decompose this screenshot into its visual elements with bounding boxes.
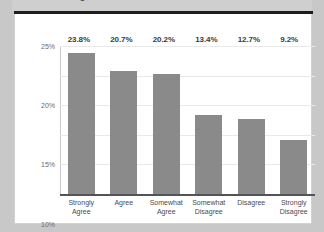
x-axis-category-label: Disagree — [231, 198, 271, 216]
bar-slot: 23.8% — [68, 46, 95, 194]
bar-value-label: 23.8% — [68, 35, 90, 44]
bar-value-label: 13.4% — [195, 35, 217, 44]
bar-slot: 9.2% — [280, 46, 307, 194]
chart-title-band: All College Graduates — [12, 0, 312, 11]
bar[interactable]: 23.8% — [68, 53, 95, 194]
x-axis-tick-labels: StronglyAgreeAgreeSomewhatAgreeSomewhatD… — [60, 198, 315, 216]
bar[interactable]: 20.2% — [153, 74, 180, 194]
category-label-line: Somewhat — [146, 198, 186, 207]
chart-panel: 0%5%10%15%20%25% 23.8%20.7%20.2%13.4%12.… — [14, 14, 312, 224]
bar[interactable]: 9.2% — [280, 140, 307, 194]
gridline: 0% — [60, 194, 315, 195]
plot-area: 0%5%10%15%20%25% 23.8%20.7%20.2%13.4%12.… — [60, 46, 315, 194]
bar[interactable]: 13.4% — [195, 115, 222, 194]
category-label-line: Agree — [61, 207, 101, 216]
bar-slot: 20.2% — [153, 46, 180, 194]
page-title: All College Graduates — [42, 0, 140, 1]
category-label-line: Agree — [146, 207, 186, 216]
bar-value-label: 20.7% — [110, 35, 132, 44]
x-axis-category-label: SomewhatDisagree — [189, 198, 229, 216]
bar-slot: 13.4% — [195, 46, 222, 194]
category-label-line: Disagree — [231, 198, 271, 207]
chart-page: All College Graduates 0%5%10%15%20%25% 2… — [0, 0, 324, 232]
category-label-line: Disagree — [274, 207, 314, 216]
x-axis-category-label: SomewhatAgree — [146, 198, 186, 216]
category-label-line: Somewhat — [189, 198, 229, 207]
category-label-line: Strongly — [274, 198, 314, 207]
category-label-line: Strongly — [61, 198, 101, 207]
bar-slot: 12.7% — [238, 46, 265, 194]
y-axis-tick-label: 15% — [41, 161, 55, 168]
y-axis-tick-label: 25% — [41, 43, 55, 50]
y-axis-tick-label: 10% — [41, 220, 55, 227]
category-label-line: Agree — [104, 198, 144, 207]
bar-value-label: 20.2% — [153, 35, 175, 44]
bar[interactable]: 20.7% — [110, 71, 137, 194]
bar-slot: 20.7% — [110, 46, 137, 194]
category-label-line: Disagree — [189, 207, 229, 216]
x-axis-category-label: Agree — [104, 198, 144, 216]
y-axis-tick-label: 20% — [41, 102, 55, 109]
bar-value-label: 9.2% — [280, 35, 298, 44]
x-axis-category-label: StronglyAgree — [61, 198, 101, 216]
bar[interactable]: 12.7% — [238, 119, 265, 194]
bar-value-label: 12.7% — [238, 35, 260, 44]
bar-series: 23.8%20.7%20.2%13.4%12.7%9.2% — [60, 46, 315, 194]
x-axis-category-label: StronglyDisagree — [274, 198, 314, 216]
